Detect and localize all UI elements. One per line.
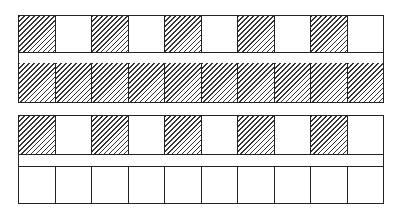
top-group-row-1 bbox=[19, 16, 383, 53]
hatched-cell bbox=[275, 63, 312, 102]
empty-cell bbox=[56, 116, 93, 155]
hatched-cell bbox=[238, 63, 275, 102]
empty-cell bbox=[238, 166, 275, 203]
hatched-cell bbox=[238, 16, 275, 53]
top-group bbox=[18, 15, 384, 103]
bottom-group bbox=[18, 115, 384, 204]
top-group-row-2 bbox=[19, 63, 383, 102]
hatched-cell bbox=[165, 63, 202, 102]
hatched-cell bbox=[238, 116, 275, 155]
empty-cell bbox=[129, 116, 166, 155]
empty-cell bbox=[19, 166, 56, 203]
hatched-cell bbox=[92, 116, 129, 155]
bottom-group-row-1 bbox=[19, 116, 383, 155]
hatched-cell bbox=[202, 63, 239, 102]
hatched-cell bbox=[19, 16, 56, 53]
hatched-cell bbox=[165, 116, 202, 155]
empty-cell bbox=[56, 16, 93, 53]
empty-cell bbox=[129, 166, 166, 203]
hatched-cell bbox=[92, 16, 129, 53]
empty-cell bbox=[275, 166, 312, 203]
empty-cell bbox=[311, 166, 348, 203]
empty-cell bbox=[348, 166, 384, 203]
empty-cell bbox=[92, 166, 129, 203]
hatched-cell bbox=[56, 63, 93, 102]
hatched-cell bbox=[311, 16, 348, 53]
hatched-cell bbox=[165, 16, 202, 53]
empty-cell bbox=[275, 16, 312, 53]
empty-cell bbox=[202, 166, 239, 203]
hatched-cell bbox=[19, 63, 56, 102]
hatched-cell bbox=[311, 116, 348, 155]
empty-cell bbox=[202, 116, 239, 155]
bottom-group-row-2 bbox=[19, 166, 383, 203]
hatched-cell bbox=[348, 63, 384, 102]
hatched-cell bbox=[19, 116, 56, 155]
empty-cell bbox=[202, 16, 239, 53]
empty-cell bbox=[165, 166, 202, 203]
empty-cell bbox=[348, 116, 384, 155]
empty-cell bbox=[348, 16, 384, 53]
empty-cell bbox=[129, 16, 166, 53]
empty-cell bbox=[56, 166, 93, 203]
hatched-cell bbox=[129, 63, 166, 102]
empty-cell bbox=[275, 116, 312, 155]
hatched-cell bbox=[311, 63, 348, 102]
hatched-cell bbox=[92, 63, 129, 102]
